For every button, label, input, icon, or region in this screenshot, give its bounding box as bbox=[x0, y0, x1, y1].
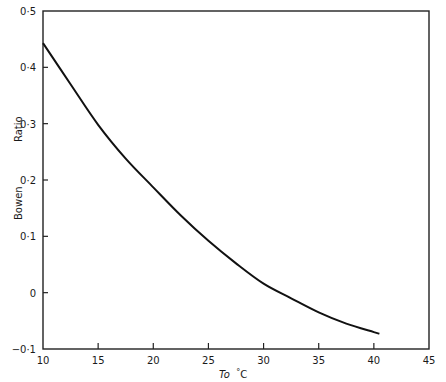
x-tick-label: 15 bbox=[92, 355, 105, 366]
y-axis-title-ratio: Ratio bbox=[13, 116, 24, 142]
y-axis-title-bowen: Bowen bbox=[13, 186, 24, 220]
y-tick-label: −0·1 bbox=[12, 344, 36, 355]
x-axis-unit: C bbox=[240, 369, 247, 380]
chart: 1015202530354045 0·50·40·30·20·10−0·1 To… bbox=[0, 0, 446, 382]
x-tick-label: 30 bbox=[257, 355, 270, 366]
x-tick-label: 35 bbox=[312, 355, 325, 366]
y-tick-label: 0·1 bbox=[20, 231, 36, 242]
plot-frame bbox=[43, 11, 429, 349]
y-tick-label: 0·4 bbox=[20, 62, 36, 73]
y-tick-label: 0·5 bbox=[20, 6, 36, 17]
bowen-ratio-line bbox=[43, 43, 379, 334]
x-tick-label: 25 bbox=[202, 355, 215, 366]
x-axis-ticks: 1015202530354045 bbox=[37, 343, 436, 366]
y-tick-label: 0 bbox=[30, 288, 36, 299]
x-tick-label: 45 bbox=[423, 355, 436, 366]
x-tick-label: 40 bbox=[367, 355, 380, 366]
x-axis-title: To °C bbox=[219, 368, 247, 380]
x-tick-label: 20 bbox=[147, 355, 160, 366]
y-tick-label: 0·2 bbox=[20, 175, 36, 186]
x-tick-label: 10 bbox=[37, 355, 50, 366]
